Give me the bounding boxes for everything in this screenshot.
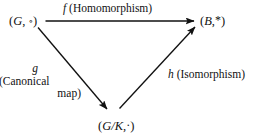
edge-label-f: f (Homomorphism) — [63, 2, 152, 15]
node-quotient-symbol: G/K — [102, 119, 123, 133]
node-quotient-group: (G/K,·) — [98, 120, 134, 133]
edge-f-description: (Homomorphism) — [69, 2, 152, 14]
node-codomain-operator: * — [215, 13, 221, 27]
edge-h-description: (Isomorphism) — [177, 68, 245, 80]
node-domain-operator: ∘ — [28, 16, 32, 26]
edge-label-h: h (Isomorphism) — [168, 68, 245, 81]
node-quotient-operator: · — [126, 118, 130, 132]
commutative-diagram: (G, ∘) (B,*) (G/K,·) f (Homomorphism) g … — [0, 0, 255, 140]
node-codomain-close-paren: ) — [221, 14, 225, 28]
node-codomain-group: (B,*) — [200, 15, 225, 28]
edge-label-g: g (Canonical map) — [0, 62, 85, 100]
edge-f-function: f — [63, 2, 66, 14]
node-domain-symbol: G — [13, 14, 22, 28]
edge-g-description-line-2: map) — [0, 87, 85, 100]
edge-g-description-line-1: (Canonical — [0, 75, 85, 88]
edge-h-function: h — [168, 68, 174, 80]
node-quotient-close-paren: ) — [130, 119, 134, 133]
node-domain-group: (G, ∘) — [9, 15, 37, 28]
edge-g-function: g — [0, 62, 85, 75]
node-domain-close-paren: ) — [33, 14, 37, 28]
node-codomain-symbol: B — [204, 14, 212, 28]
